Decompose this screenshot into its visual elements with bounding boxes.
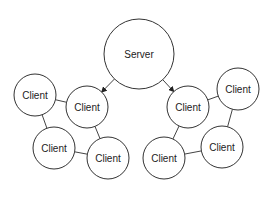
client-node: Client — [167, 86, 209, 128]
client-node: Client — [87, 137, 129, 179]
client-node: Client — [14, 74, 56, 116]
link-connector — [42, 115, 47, 128]
link-connector — [185, 151, 202, 154]
arrow-connector — [102, 79, 115, 92]
client-node: Client — [66, 86, 108, 128]
node-label: Client — [22, 90, 48, 101]
node-label: Client — [41, 143, 67, 154]
client-node: Client — [33, 127, 75, 169]
nodes-layer: ServerClientClientClientClientClientClie… — [14, 19, 259, 179]
node-label: Client — [225, 84, 251, 95]
link-connector — [173, 126, 179, 139]
node-label: Client — [95, 153, 121, 164]
node-label: Client — [209, 142, 235, 153]
node-label: Client — [175, 102, 201, 113]
link-connector — [208, 96, 218, 100]
diagram-canvas: ServerClientClientClientClientClientClie… — [0, 0, 275, 197]
arrow-connector — [163, 80, 174, 92]
client-node: Client — [201, 126, 243, 168]
client-node: Client — [143, 137, 185, 179]
server-node: Server — [104, 19, 174, 89]
node-label: Client — [74, 102, 100, 113]
link-connector — [95, 126, 100, 138]
node-label: Server — [124, 49, 154, 60]
client-node: Client — [217, 68, 259, 110]
node-label: Client — [151, 153, 177, 164]
link-connector — [55, 100, 66, 103]
link-connector — [75, 152, 88, 154]
link-connector — [228, 109, 233, 127]
network-diagram: ServerClientClientClientClientClientClie… — [0, 0, 275, 197]
